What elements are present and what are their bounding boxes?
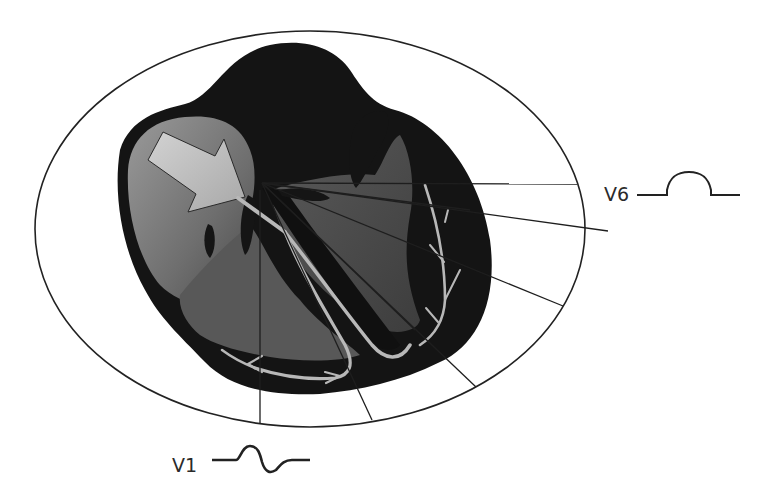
lead-label-v1: V1: [172, 456, 197, 475]
v1-waveform-icon: [212, 446, 310, 472]
v6-waveform-icon: [637, 172, 740, 195]
lead-label-v6: V6: [604, 185, 629, 204]
heart-ecg-diagram: [0, 0, 764, 491]
